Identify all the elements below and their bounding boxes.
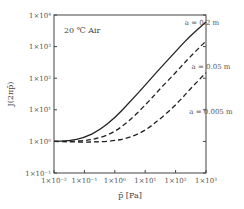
annotation-label: 20 ℃ Air <box>64 26 101 35</box>
x-tick-label: 1×10³ <box>195 177 217 185</box>
x-tick-label: 1×10¹ <box>134 177 156 185</box>
x-axis-label: p̄ [Pa] <box>118 191 142 200</box>
y-tick-label: 1×10² <box>29 75 51 83</box>
y-tick-label: 1×10⁰ <box>29 138 51 146</box>
x-tick-label: 1×10² <box>165 177 187 185</box>
curve-1 <box>54 41 206 141</box>
legend-a-0.05: a = 0.05 m <box>192 63 231 71</box>
y-tick-label: 1×10⁻¹ <box>25 170 51 178</box>
chart: 1×10⁻²1×10⁻¹1×10⁰1×10¹1×10²1×10³1×10⁴1×1… <box>0 0 244 209</box>
curve-0 <box>54 22 206 141</box>
y-tick-label: 1×10³ <box>29 43 51 51</box>
y-tick-label: 1×10¹ <box>29 106 51 114</box>
y-tick-label: 1×10⁴ <box>29 12 51 20</box>
legend-a-0.005: a = 0.005 m <box>189 108 233 116</box>
legend-a-0.2: a = 0.2 m <box>185 19 220 27</box>
x-tick-label: 1×10⁻² <box>41 177 67 185</box>
x-tick-label: 1×10⁰ <box>104 177 126 185</box>
curve-2 <box>54 73 206 142</box>
y-axis-label: J(2πp̄) <box>6 82 15 108</box>
plot-frame <box>54 15 206 173</box>
x-tick-label: 1×10⁻¹ <box>72 177 98 185</box>
data-curves <box>54 22 206 142</box>
